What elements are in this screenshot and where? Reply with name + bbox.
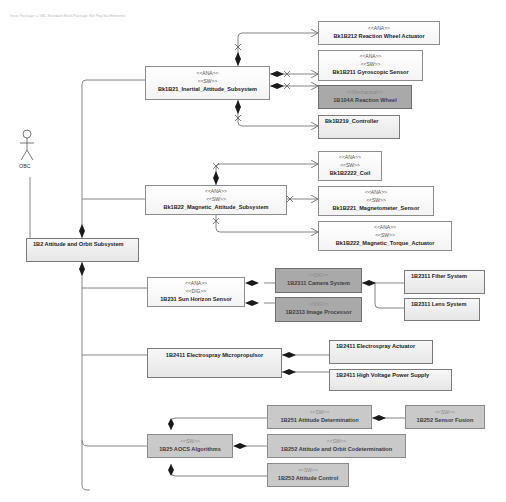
block-gyroscopic-sensor[interactable]: <<ANA>> <<SW>> Bk1B211 Gyroscopic Sensor bbox=[318, 50, 423, 81]
block-attitude-orbit-codetermination[interactable]: <<SW>> 1B252 Attitude and Orbit Codeterm… bbox=[267, 434, 406, 458]
composition-diamond-icon bbox=[213, 171, 219, 185]
composition-diamond-icon bbox=[168, 464, 174, 476]
composition-diamond-icon bbox=[79, 262, 85, 276]
composition-diamond-icon bbox=[235, 100, 241, 114]
aos-to-inertial-line bbox=[82, 80, 145, 238]
composition-diamond-icon bbox=[282, 352, 296, 358]
block-controller[interactable]: Bk1B219_Controller bbox=[318, 115, 400, 139]
block-magnetic-torque-actuator[interactable]: <<ANA>> <<SW>> Bk1B222_Magnetic_Torque_A… bbox=[318, 221, 452, 251]
block-inertial-attitude-subsystem[interactable]: <<ANA>> <<SW>> Bk1B21_Inertial_Attitude_… bbox=[145, 66, 270, 100]
block-magnetometer-sensor[interactable]: <<ANA>> <<SW>> Bk1B221_Magnetometer_Sens… bbox=[318, 186, 434, 216]
composition-diamond-icon bbox=[362, 280, 376, 286]
composition-diamond-icon bbox=[245, 300, 259, 306]
composition-diamond-icon bbox=[270, 71, 284, 77]
block-image-processor[interactable]: <<DIG>> 1B2313 Image Processor bbox=[275, 297, 362, 322]
composition-diamond-icon bbox=[282, 369, 296, 375]
block-magnetic-attitude-subsystem[interactable]: <<ANA>> <<SW>> Bk1B22_Magnetic_Attitude_… bbox=[145, 185, 287, 215]
block-sun-horizon-sensor[interactable]: <<ANA>> <<DIG>> 1B231 Sun Horizon Sensor bbox=[147, 277, 245, 307]
block-coil[interactable]: <<ANA>> <<SW>> Bk1B2222_Coil bbox=[318, 151, 382, 181]
block-attitude-determination[interactable]: <<SW>> 1B251 Attitude Determination bbox=[267, 405, 372, 429]
block-attitude-orbit-subsystem[interactable]: 1B2 Attitude and Orbit Subsystem bbox=[26, 238, 139, 262]
block-lens-system[interactable]: 1B2311 Lens System bbox=[404, 298, 480, 321]
block-reaction-wheel[interactable]: <<Mechanical>> 1B104A Reaction Wheel bbox=[318, 85, 412, 109]
composition-diamond-icon bbox=[372, 415, 386, 421]
composition-diamond-icon bbox=[235, 52, 241, 66]
aos-trunk-down bbox=[82, 262, 90, 490]
block-sensor-fusion[interactable]: <<SW>> 1B252 Sensor Fusion bbox=[405, 405, 485, 429]
block-camera-system[interactable]: <<DIG>> 1B2311 Camera System bbox=[275, 268, 362, 293]
block-attitude-control[interactable]: <<SW>> 1B253 Attitude Control bbox=[267, 463, 349, 487]
actor-obc-icon bbox=[20, 130, 34, 160]
block-electrospray-actuator[interactable]: 1B2411 Electrospray Actuator bbox=[329, 340, 433, 364]
composition-diamond-icon bbox=[270, 83, 284, 89]
composition-diamond-icon bbox=[168, 418, 174, 430]
actor-obc-label: OBC bbox=[19, 163, 31, 169]
block-electrospray-micropropulsor[interactable]: 1B2411 Electrospray Micropropulsor bbox=[147, 348, 282, 378]
aos-to-aocs-line bbox=[82, 440, 147, 446]
block-reaction-wheel-actuator[interactable]: <<ANA>> Bk1B212 Reaction Wheel Actuator bbox=[318, 21, 440, 45]
composition-diamond-icon bbox=[245, 280, 259, 286]
block-high-voltage-power-supply[interactable]: 1B2411 High Voltage Power Supply bbox=[329, 369, 452, 391]
composition-diamond-icon bbox=[79, 224, 85, 238]
composition-diamond-icon bbox=[233, 443, 247, 449]
block-filter-system[interactable]: 1B2311 Filter System bbox=[404, 270, 485, 294]
block-aocs-algorithms[interactable]: <<SW>> 1B25 AOCS Algorithms bbox=[147, 434, 233, 458]
